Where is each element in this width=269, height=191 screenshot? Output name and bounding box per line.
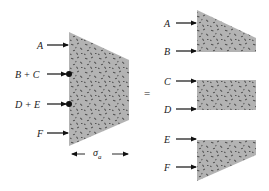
label-e-right: E	[163, 134, 170, 145]
node-de-dot	[66, 101, 72, 107]
label-a-right: A	[163, 18, 171, 29]
component-block-cd: C D	[163, 76, 256, 115]
label-b-right: B	[164, 46, 170, 57]
component-shape-ef	[197, 140, 256, 181]
sigma-a-label: σa	[93, 147, 102, 161]
label-a: A	[36, 40, 44, 51]
component-shape-ab	[197, 10, 256, 52]
label-d-plus-e: D + E	[14, 99, 40, 110]
label-c-right: C	[164, 76, 171, 87]
equals-sign: =	[144, 87, 150, 99]
component-block-ef: E F	[163, 134, 256, 181]
combined-stress-block: A B + C D + E F σa	[14, 32, 129, 161]
component-shape-cd	[197, 80, 256, 110]
label-f-right: F	[163, 162, 171, 173]
node-bc-dot	[66, 71, 72, 77]
label-f: F	[36, 128, 44, 139]
combined-stress-shape	[69, 32, 129, 146]
stress-diagram: A B + C D + E F σa = A B C D E F	[0, 0, 269, 191]
component-block-ab: A B	[163, 10, 256, 57]
label-b-plus-c: B + C	[15, 69, 40, 80]
label-d-right: D	[163, 104, 172, 115]
